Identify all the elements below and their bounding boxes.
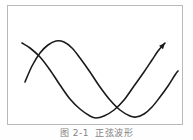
figure-caption-title: 正弦波形 (95, 128, 133, 138)
figure-container: 图 2-1正弦波形 (0, 0, 193, 140)
figure-caption: 图 2-1正弦波形 (0, 127, 193, 139)
plot-frame (7, 5, 183, 125)
figure-caption-number: 图 2-1 (60, 128, 89, 138)
